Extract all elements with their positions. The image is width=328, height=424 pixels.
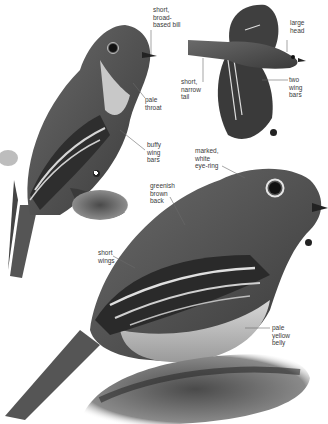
flight-bird (188, 5, 306, 139)
label-large-head: large head (290, 19, 304, 34)
label-pale-throat: pale throat (145, 96, 162, 111)
adult-symbol-icon (305, 239, 312, 246)
label-short-broad-based-bill: short, broad- based bill (153, 6, 180, 29)
label-two-wing-bars: two wing bars (289, 76, 302, 99)
label-marked-white-eye-ring: marked, white eye-ring (195, 147, 218, 170)
label-buffy-wing-bars: buffy wing bars (147, 141, 161, 164)
label-short-narrow-tail: short, narrow tail (181, 78, 201, 101)
juvenile-symbol-icon (93, 170, 100, 177)
label-greenish-brown-back: greenish brown back (150, 182, 175, 205)
illustration-canvas (0, 0, 328, 424)
label-pale-yellow-belly: pale yellow belly (272, 324, 290, 347)
label-short-wings: short wings (98, 249, 115, 264)
adult-symbol-icon (270, 129, 277, 136)
